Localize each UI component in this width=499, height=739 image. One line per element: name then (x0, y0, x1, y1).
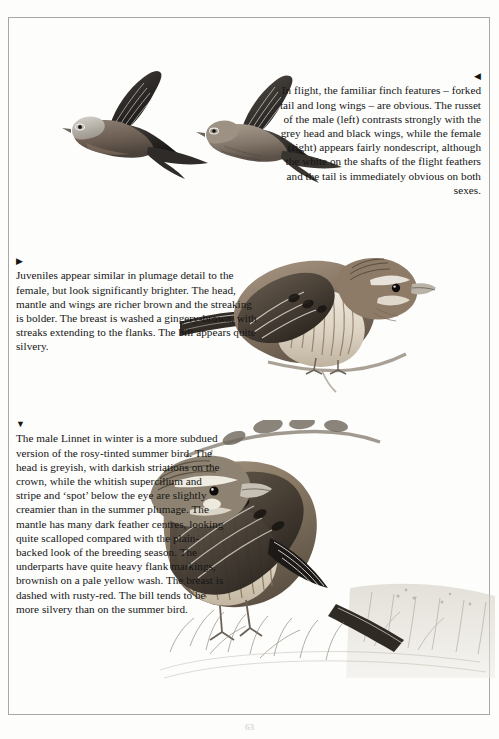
down-pointing-triangle-icon: ▼ (16, 419, 25, 429)
caption-winter-text: The male Linnet in winter is a more subd… (16, 432, 223, 614)
caption-juvenile: ▶ Juveniles appear similar in plumage de… (16, 240, 261, 354)
caption-winter: ▼ The male Linnet in winter is a more su… (16, 403, 228, 616)
left-pointing-triangle-icon: ◀ (474, 71, 481, 81)
right-pointing-triangle-icon: ▶ (16, 256, 23, 266)
caption-flight: ◀ In flight, the familiar finch features… (276, 55, 481, 197)
caption-juvenile-text: Juveniles appear similar in plumage deta… (16, 269, 257, 352)
book-page: ◀ In flight, the familiar finch features… (0, 0, 499, 739)
caption-flight-text: In flight, the familiar finch features –… (280, 84, 481, 195)
page-number: 63 (0, 722, 499, 732)
